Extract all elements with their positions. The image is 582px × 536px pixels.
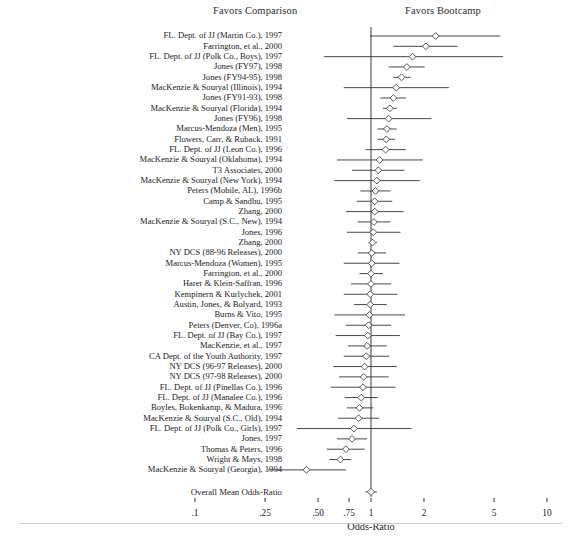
effect-size-diamond [367,291,374,298]
study-label: Flowers, Carr, & Ruback, 1991 [0,135,287,144]
study-label: Harer & Klein-Saffran, 1996 [0,279,287,288]
study-row [345,394,378,401]
effect-size-diamond [385,115,392,122]
study-label: Farrington, et al., 2000 [0,269,287,278]
study-label: Boyles, Bokenkamp, & Madura, 1996 [0,403,287,412]
study-label: Wright & Mays, 1998 [0,455,287,464]
study-label: FL. Dept. of JJ (Martin Co.), 1997 [0,31,287,40]
effect-size-diamond [376,157,383,164]
effect-size-diamond [365,322,372,329]
effect-size-diamond [371,219,378,226]
effect-size-diamond [390,95,397,102]
study-row [369,239,377,246]
effect-size-diamond [360,373,367,380]
axis-tick-label: 10 [542,508,551,518]
study-label: Austin, Jones, & Bolyard, 1993 [0,300,287,309]
study-row [344,291,398,298]
study-row [360,188,390,195]
study-label: Jones, 1997 [0,434,287,443]
axis-tick-label: .75 [343,508,355,518]
study-row [393,43,457,50]
study-row [380,95,406,102]
study-row [344,260,400,267]
effect-size-diamond [369,239,376,246]
study-label: Zhang, 2000 [0,238,287,247]
study-label: MacKenzie & Souryal (Oklahoma), 1994 [0,155,287,164]
study-label: Camp & Sandhu, 1995 [0,197,287,206]
study-label: Thomas & Peters, 1996 [0,445,287,454]
study-label: MacKenzie & Souryal (S.C., Old), 1994 [0,414,287,423]
study-row [383,105,397,112]
study-row [351,281,391,288]
effect-size-diamond [371,208,378,215]
effect-size-diamond [366,312,373,319]
effect-size-diamond [409,53,416,60]
study-label: NY DCS (88-96 Releases), 2000 [0,248,287,257]
axis-tick-label: 5 [492,508,497,518]
effect-size-diamond [368,260,375,267]
bottom-divider [20,523,562,524]
study-row [393,74,410,81]
study-label: Jones (FY97), 1998 [0,62,287,71]
effect-size-diamond [386,105,393,112]
axis-tick-label: .1 [191,508,198,518]
study-row [347,229,401,236]
study-label: NY DCS (97-98 Releases), 2000 [0,372,287,381]
study-label: T3 Associates, 2000 [0,166,287,175]
axis-tick-label: 2 [422,508,427,518]
study-label: Farrington, et al., 2000 [0,42,287,51]
study-label: FL. Dept. of JJ (Leon Co.), 1996 [0,145,287,154]
forest-plot-figure: Favors Comparison Favors Bootcamp FL. De… [0,0,582,536]
effect-size-diamond [342,446,349,453]
effect-size-diamond [349,435,356,442]
study-row [378,136,395,143]
overall-mean-row [365,488,376,495]
effect-size-diamond [404,64,411,71]
effect-size-diamond [398,74,405,81]
study-row [334,177,419,184]
study-row [378,126,397,133]
effect-size-diamond [364,332,371,339]
effect-size-diamond [367,301,374,308]
study-row [334,312,405,319]
study-row [336,332,400,339]
study-row [358,219,391,226]
study-label: CA Dept. of the Youth Authority, 1997 [0,352,287,361]
effect-size-diamond [383,136,390,143]
effect-size-diamond [371,198,378,205]
study-label: MacKenzie & Souryal (Georgia), 1994 [0,465,287,474]
effect-size-diamond [372,188,379,195]
axis-tick-label: .50 [312,508,324,518]
effect-size-diamond [356,404,363,411]
study-label: Kempinern & Kurlychek, 2001 [0,290,287,299]
effect-size-diamond [375,167,382,174]
study-row [347,404,373,411]
study-row [333,363,397,370]
study-row [337,435,367,442]
study-label: Jones, 1996 [0,228,287,237]
study-label: Jones (FY94-95), 1998 [0,73,287,82]
axis-tick-label: 1 [369,508,374,518]
effect-size-diamond [303,466,310,473]
effect-size-diamond [368,270,375,277]
study-row [297,425,412,432]
study-label: Jones (FY96), 1998 [0,114,287,123]
study-label: NY DCS (96-97 Releases), 2000 [0,362,287,371]
effect-size-diamond [351,425,358,432]
study-label: MacKenzie & Souryal (S.C., New), 1994 [0,217,287,226]
study-row [344,353,390,360]
study-row [346,208,404,215]
effect-size-diamond [383,126,390,133]
study-label: FL. Dept. of JJ (Polk Co., Girls), 1997 [0,424,287,433]
effect-size-diamond [393,84,400,91]
study-row [354,301,387,308]
study-label: MacKenzie & Souryal (Florida), 1994 [0,104,287,113]
study-label: FL. Dept. of JJ (Manalee Co.), 1996 [0,393,287,402]
study-label: MacKenzie, et al., 1997 [0,341,287,350]
study-label: Zhang, 2000 [0,207,287,216]
effect-size-diamond [382,146,389,153]
study-label: Peters (Denver, Co), 1996a [0,321,287,330]
study-row [370,33,500,40]
effect-size-diamond [355,415,362,422]
study-label: FL. Dept. of JJ (Bay Co.), 1997 [0,331,287,340]
